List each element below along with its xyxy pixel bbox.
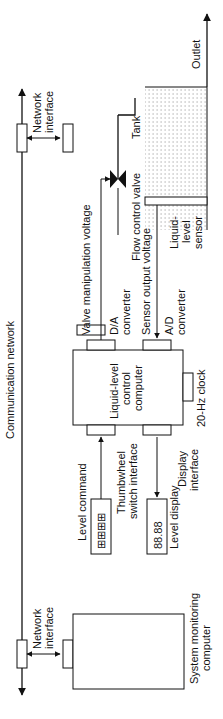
svg-text:computer: computer [200, 625, 212, 671]
svg-text:converter: converter [175, 289, 187, 335]
svg-text:Liquid-level: Liquid-level [108, 363, 120, 419]
level-display-label: Level display [168, 485, 180, 549]
valve-voltage-label: Valve manipulation voltage [80, 204, 92, 335]
svg-text:computer: computer [132, 365, 144, 411]
system-monitoring-computer: System monitoring computer [63, 593, 212, 689]
network-label: Communication network [4, 321, 16, 439]
svg-text:control: control [120, 372, 132, 405]
svg-text:converter: converter [120, 289, 132, 335]
svg-text:A/D: A/D [163, 317, 175, 335]
svg-text:Network: Network [31, 92, 43, 133]
thumbwheel-interface: ⊞⊞⊞⊞ Level command Thumbwheel switch int… [76, 425, 139, 554]
display-interface: 88.88 Level display Display interface [143, 425, 200, 554]
svg-text:sensor: sensor [192, 216, 204, 249]
svg-text:System monitoring: System monitoring [188, 593, 200, 684]
svg-text:interface: interface [43, 607, 55, 649]
network-interface-controller: Network interface [17, 91, 60, 152]
level-command-label: Level command [76, 463, 88, 541]
da-converter: D/A converter Valve manipulation voltage [80, 179, 132, 350]
svg-text:D/A: D/A [108, 316, 120, 335]
valve-label: Flow control valve [130, 173, 142, 261]
thumbwheel-digits: ⊞⊞⊞⊞ [95, 513, 107, 549]
outlet-label: Outlet [190, 40, 202, 69]
svg-text:interface: interface [188, 449, 200, 491]
svg-text:Display: Display [176, 450, 188, 487]
svg-text:interface: interface [43, 91, 55, 133]
network-interface-monitor: Network interface [17, 607, 60, 668]
svg-text:switch interface: switch interface [127, 443, 139, 519]
communication-network: Communication network [4, 89, 22, 695]
diagram-canvas: Communication network Network interface … [0, 0, 223, 719]
level-display-digits: 88.88 [152, 521, 164, 549]
clock-label: 20-Hz clock [195, 369, 207, 427]
svg-text:level: level [180, 220, 192, 243]
svg-text:Network: Network [31, 608, 43, 649]
svg-text:Thumbwheel: Thumbwheel [115, 451, 127, 514]
svg-text:Liquid-: Liquid- [168, 216, 180, 249]
tank-label: Tank [130, 115, 142, 139]
